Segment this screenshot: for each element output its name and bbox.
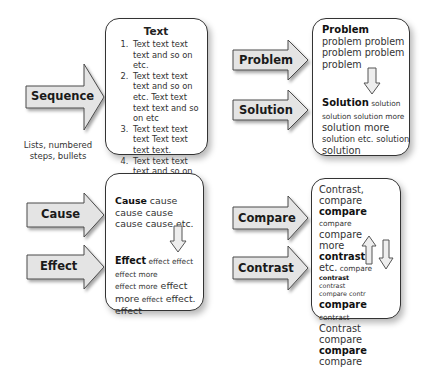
compare-line: compare [319,345,367,356]
problem-solution-box: Problem problem problem problem problem … [312,18,410,156]
effect-text: effect [139,295,163,304]
sequence-caption: Lists, numbered steps, bullets [18,140,98,162]
compare-label: Compare [238,211,296,225]
problem-text: problem problem problem problem problem [322,36,408,71]
list-item: Text text text text and so on etc. [131,39,201,71]
compare-line: compare contr [319,290,397,299]
list-item: Text text text text Text text text text. [131,124,201,156]
solution-text: solution more [322,122,412,134]
solution-heading: Solution [322,97,369,108]
cause-label: Cause [41,207,80,221]
sequence-text-box: Text Text text text text and so on etc. … [105,18,208,155]
solution-block: Solution solution solution solution more… [322,97,412,157]
problem-block: Problem problem problem problem problem … [322,24,408,70]
list-item: Text text text text and so on etc. Text … [131,71,201,124]
solution-text: solution etc. solution [322,134,412,146]
solution-text: solution [322,145,412,157]
caption-line: steps, bullets [18,151,98,162]
problem-heading: Problem [322,24,408,36]
compare-line: etc. [319,262,337,273]
compare-line: contrast [319,282,397,290]
compare-line: compare [319,299,367,310]
compare-line: compare [319,229,362,240]
sequence-label: Sequence [31,89,94,103]
effect-text: effect. [163,293,196,304]
compare-line: compare [319,219,351,228]
effect-block: Effect effect effect effect more effect … [115,255,205,317]
compare-line: contrast [319,313,349,322]
cause-heading: Cause [115,195,147,206]
compare-line: Contrast, compare [319,184,397,206]
up-arrow-icon [361,235,377,265]
down-arrow-icon [169,225,187,253]
effect-text: effect [115,305,205,317]
compare-contrast-box: Contrast, compare compare compare compar… [311,178,401,319]
solution-label: Solution [239,103,293,117]
compare-line: compare [319,206,397,217]
contrast-label: Contrast [238,261,294,275]
effect-text: effect [158,280,188,291]
effect-text: more [115,293,139,304]
effect-heading: Effect [115,255,146,266]
compare-line: compare [319,356,362,367]
effect-text: effect more [115,282,158,291]
box-title: Text [111,25,201,37]
effect-label: Effect [40,259,77,273]
compare-line: Contrast compare [319,323,397,345]
compare-line: compare [337,264,372,273]
down-arrow-icon [363,67,381,95]
problem-label: Problem [239,53,293,67]
down-arrow-icon [378,239,394,270]
cause-block: Cause cause cause cause cause cause etc. [115,195,201,230]
compare-line: contrast [319,274,397,282]
compare-block: Contrast, compare compare compare compar… [319,184,397,367]
caption-line: Lists, numbered [18,140,98,151]
cause-effect-box: Cause cause cause cause cause cause etc.… [105,173,204,311]
